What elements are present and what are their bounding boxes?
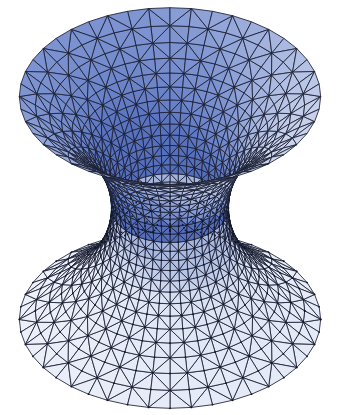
mesh-vertex-dot <box>194 222 196 224</box>
mesh-vertex-dot <box>87 251 89 253</box>
mesh-vertex-dot <box>186 372 188 374</box>
mesh-vertex-dot <box>169 357 171 359</box>
mesh-vertex-dot <box>191 231 193 233</box>
mesh-vertex-dot <box>212 404 214 406</box>
mesh-vertex-dot <box>123 281 125 283</box>
mesh-vertex-dot <box>102 238 104 240</box>
mesh-vertex-dot <box>207 386 209 388</box>
mesh-vertex-dot <box>111 236 113 238</box>
mesh-vertex-dot <box>40 288 42 290</box>
mesh-vertex-dot <box>134 274 136 276</box>
mesh-vertex-dot <box>95 252 97 254</box>
mesh-vertex-dot <box>131 234 133 236</box>
mesh-vertex-dot <box>95 287 97 289</box>
mesh-vertex-dot <box>257 283 259 285</box>
mesh-vertex-dot <box>152 372 154 374</box>
mesh-vertex-dot <box>209 197 211 199</box>
mesh-vertex-dot <box>48 301 50 303</box>
mesh-vertex-dot <box>88 244 90 246</box>
mesh-vertex-dot <box>70 386 72 388</box>
mesh-vertex-dot <box>179 291 181 293</box>
mesh-vertex-dot <box>195 199 197 201</box>
mesh-vertex-dot <box>169 233 171 235</box>
mesh-vertex-dot <box>220 243 222 245</box>
mesh-vertex-dot <box>169 250 171 252</box>
mesh-vertex-dot <box>222 277 224 279</box>
mesh-vertex-dot <box>160 269 162 271</box>
mesh-vertex-dot <box>250 298 252 300</box>
mesh-vertex-dot <box>119 237 121 239</box>
mesh-vertex-dot <box>70 251 72 253</box>
mesh-vertex-dot <box>81 250 83 252</box>
mesh-vertex-dot <box>320 319 322 321</box>
mesh-vertex-dot <box>226 218 228 220</box>
mesh-vertex-dot <box>169 342 171 344</box>
mesh-vertex-dot <box>116 236 118 238</box>
mesh-vertex-dot <box>116 277 118 279</box>
mesh-vertex-dot <box>137 228 139 230</box>
mesh-vertex-dot <box>289 312 291 314</box>
mesh-vertex-dot <box>289 291 291 293</box>
mesh-vertex-dot <box>314 344 316 346</box>
mesh-vertex-dot <box>118 243 120 245</box>
mesh-vertex-dot <box>217 231 219 233</box>
mesh-vertex-dot <box>203 311 205 313</box>
mesh-vertex-dot <box>68 263 70 265</box>
mesh-vertex-dot <box>240 244 242 246</box>
mesh-vertex-dot <box>257 250 259 252</box>
mesh-vertex-dot <box>72 276 74 278</box>
mesh-vertex-dot <box>216 257 218 259</box>
mesh-vertex-dot <box>47 277 49 279</box>
mesh-vertex-dot <box>183 227 185 229</box>
mesh-vertex-dot <box>192 313 194 315</box>
mesh-vertex-dot <box>107 238 109 240</box>
mesh-vertex-dot <box>232 283 234 285</box>
mesh-vertex-dot <box>161 233 163 235</box>
mesh-vertex-dot <box>231 299 233 301</box>
mesh-vertex-dot <box>233 328 235 330</box>
mesh-vertex-dot <box>215 201 217 203</box>
mesh-vertex-dot <box>214 235 216 237</box>
mesh-vertex-dot <box>201 236 203 238</box>
mesh-vertex-dot <box>55 377 57 379</box>
mesh-vertex-dot <box>178 203 180 205</box>
mesh-vertex-dot <box>95 322 97 324</box>
mesh-vertex-dot <box>180 302 182 304</box>
mesh-vertex-dot <box>128 261 130 263</box>
mesh-vertex-dot <box>151 204 153 206</box>
mesh-vertex-dot <box>122 209 124 211</box>
mesh-vertex-dot <box>153 240 155 242</box>
mesh-vertex-dot <box>194 247 196 249</box>
mesh-vertex-dot <box>169 270 171 272</box>
mesh-vertex-dot <box>161 241 163 243</box>
mesh-vertex-dot <box>131 242 133 244</box>
mesh-vertex-dot <box>255 261 257 263</box>
mesh-vertex-dot <box>183 342 185 344</box>
mesh-vertex-dot <box>169 242 171 244</box>
mesh-vertex-dot <box>111 315 113 317</box>
mesh-vertex-dot <box>298 332 300 334</box>
mesh-vertex-dot <box>98 244 100 246</box>
mesh-vertex-dot <box>198 212 200 214</box>
mesh-vertex-dot <box>212 212 214 214</box>
mesh-vertex-dot <box>116 303 118 305</box>
mesh-vertex-dot <box>152 231 154 233</box>
mesh-vertex-dot <box>161 225 163 227</box>
mesh-vertex-dot <box>197 340 199 342</box>
mesh-vertex-dot <box>152 258 154 260</box>
mesh-vertex-dot <box>141 340 143 342</box>
mesh-vertex-dot <box>260 258 262 260</box>
mesh-vertex-dot <box>88 260 90 262</box>
mesh-vertex-dot <box>302 321 304 323</box>
mesh-vertex-dot <box>88 274 90 276</box>
mesh-vertex-dot <box>210 221 212 223</box>
mesh-vertex-dot <box>218 225 220 227</box>
mesh-vertex-dot <box>242 243 244 245</box>
mesh-vertex-dot <box>97 246 99 248</box>
mesh-vertex-dot <box>203 264 205 266</box>
mesh-vertex-dot <box>150 389 152 391</box>
mesh-vertex-dot <box>244 304 246 306</box>
mesh-vertex-dot <box>127 404 129 406</box>
mesh-vertex-dot <box>185 229 187 231</box>
mesh-vertex-dot <box>137 254 139 256</box>
